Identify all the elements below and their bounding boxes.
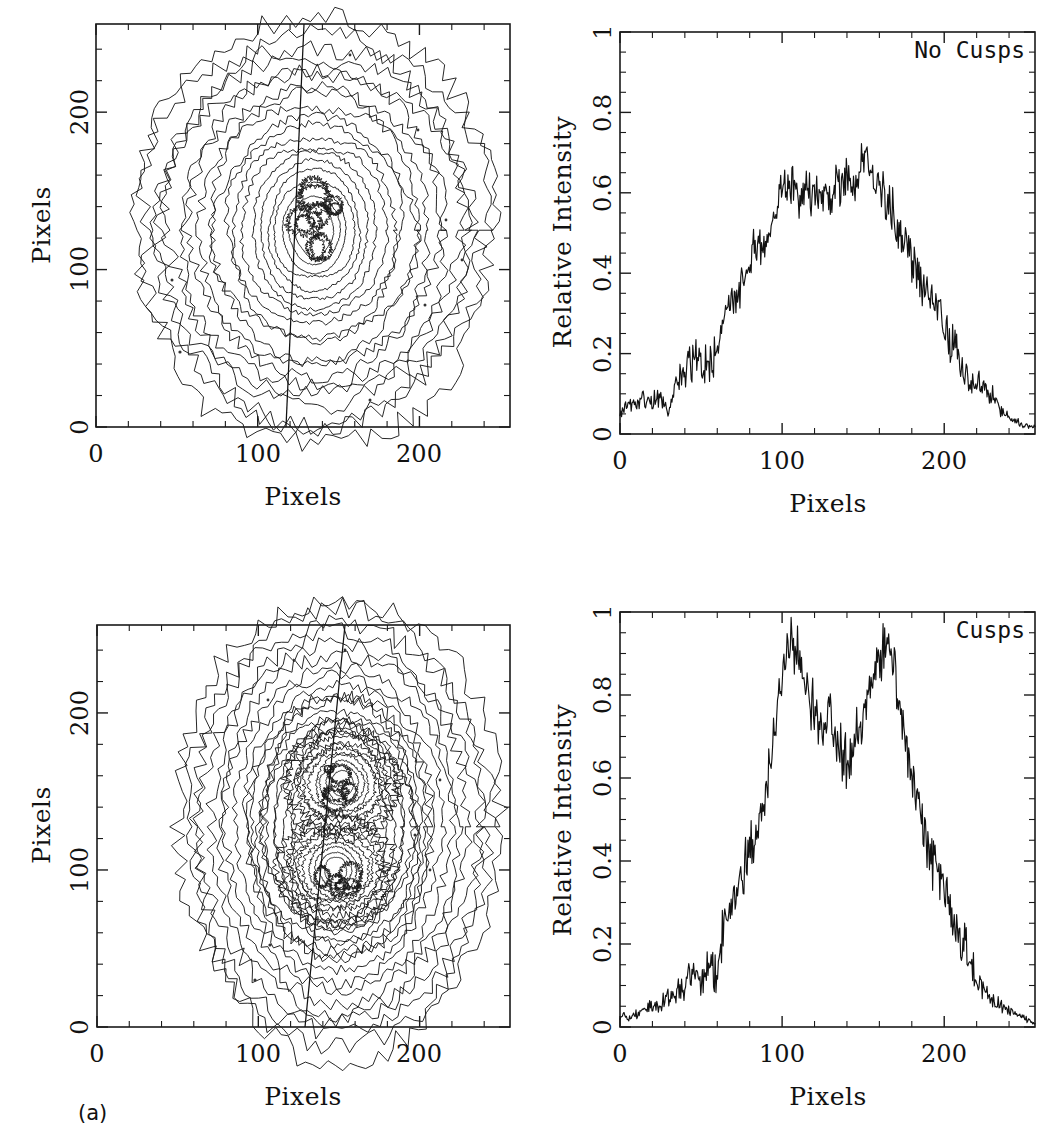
panel-annotation-no-cusps: No Cusps — [914, 37, 1025, 63]
contour-lines-bl — [170, 597, 508, 1071]
xtick-label-tr-100: 100 — [759, 447, 805, 475]
ylabel-bl: Pixels — [27, 786, 56, 864]
xlabel-tl: Pixels — [264, 482, 342, 511]
slice-cut-line-bl — [305, 625, 345, 1027]
xtick-label-br-200: 200 — [921, 1040, 967, 1068]
ytick-label-br-08: 0.8 — [589, 676, 617, 714]
panel-annotation-cusps: Cusps — [956, 617, 1025, 643]
figure-panel-label: (a) — [78, 1101, 107, 1125]
ytick-label-bl-0: 0 — [66, 1019, 94, 1034]
ytick-label-bl-100: 100 — [66, 847, 94, 893]
axis-ticks-tl — [96, 24, 510, 427]
panel-profile-no-cusps: No Cusps 0 0.2 0.4 0.6 0.8 1 0 100 200 R… — [525, 0, 1055, 530]
panel-contour-cusps: 0 100 200 0 100 200 Pixels Pixels (a) — [0, 580, 530, 1130]
ylabel-br: Relative Intensity — [548, 703, 577, 936]
ytick-label-br-02: 0.2 — [589, 925, 617, 963]
xtick-label-bl-200: 200 — [396, 1040, 442, 1068]
xlabel-br: Pixels — [789, 1082, 867, 1111]
xtick-label-br-0: 0 — [612, 1040, 627, 1068]
ytick-label-br-04: 0.4 — [589, 842, 617, 880]
ytick-label-tr-02: 0.2 — [589, 335, 617, 373]
axes-frame-tl — [96, 24, 510, 427]
ytick-label-tr-0: 0 — [589, 426, 617, 441]
intensity-curve-cusps — [620, 617, 1035, 1024]
ytick-label-tr-06: 0.6 — [589, 174, 617, 212]
ytick-label-tl-0: 0 — [66, 419, 94, 434]
panel-profile-cusps: Cusps 0 0.2 0.4 0.6 0.8 1 0 100 200 Rela… — [525, 580, 1055, 1130]
xtick-label-tr-0: 0 — [612, 447, 627, 475]
contour-lines-tl — [130, 7, 501, 451]
ylabel-tl: Pixels — [27, 186, 56, 264]
ytick-label-br-0: 0 — [589, 1019, 617, 1034]
ytick-label-tr-1: 1 — [589, 24, 617, 39]
ytick-label-tr-08: 0.8 — [589, 94, 617, 132]
figure-root: 0 100 200 0 100 200 Pixels Pixels No Cus… — [0, 0, 1055, 1130]
ytick-label-br-06: 0.6 — [589, 759, 617, 797]
xtick-label-tl-200: 200 — [396, 440, 442, 468]
xtick-label-tl-0: 0 — [88, 440, 103, 468]
xtick-label-bl-0: 0 — [89, 1040, 104, 1068]
ytick-label-tl-100: 100 — [66, 246, 94, 292]
intensity-curve-no-cusps — [620, 144, 1035, 429]
xtick-label-br-100: 100 — [759, 1040, 805, 1068]
ytick-label-bl-200: 200 — [66, 690, 94, 736]
ytick-label-tr-04: 0.4 — [589, 254, 617, 292]
xtick-label-tl-100: 100 — [235, 440, 281, 468]
axes-frame-bl — [97, 625, 510, 1027]
xlabel-bl: Pixels — [264, 1082, 342, 1111]
ytick-label-tl-200: 200 — [66, 89, 94, 135]
axis-ticks-bl — [97, 625, 510, 1027]
ylabel-tr: Relative Intensity — [548, 115, 577, 348]
xtick-label-tr-200: 200 — [921, 447, 967, 475]
xlabel-tr: Pixels — [789, 489, 867, 518]
ytick-label-br-1: 1 — [589, 604, 617, 619]
panel-contour-no-cusps: 0 100 200 0 100 200 Pixels Pixels — [0, 0, 530, 530]
xtick-label-bl-100: 100 — [235, 1040, 281, 1068]
